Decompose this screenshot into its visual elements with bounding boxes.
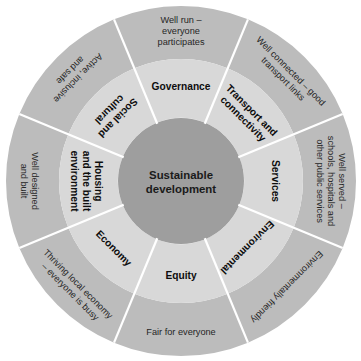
category-label-services: Services <box>270 160 281 202</box>
outer-description-line: Fair for everyone <box>146 327 215 337</box>
outer-description-line: Well designed <box>30 152 40 210</box>
sustainable-development-wheel: Well run –everyoneparticipatesWell conne… <box>0 0 361 361</box>
wheel-svg: Well run –everyoneparticipatesWell conne… <box>0 0 361 361</box>
category-label-governance: Governance <box>152 81 211 92</box>
category-label-line: and the built <box>81 151 92 212</box>
outer-description-line: Well run – <box>160 15 202 25</box>
outer-description-line: schools, hospitals and <box>326 136 336 226</box>
category-label-line: environment <box>69 150 80 212</box>
category-label-line: Services <box>270 160 281 202</box>
outer-segment-equity <box>114 294 248 356</box>
core-disc <box>118 118 244 244</box>
core-circle <box>118 118 244 244</box>
category-label-line: Governance <box>152 81 211 92</box>
outer-description-governance: Well run –everyoneparticipates <box>158 15 205 47</box>
outer-description-equity: Fair for everyone <box>146 327 215 337</box>
outer-description-line: other public services <box>315 139 325 223</box>
outer-description-line: and built <box>19 164 29 199</box>
category-label-line: Equity <box>165 270 196 281</box>
outer-description-line: Well served – <box>337 153 347 209</box>
core-label-line: Sustainable <box>149 169 213 181</box>
core-label-line: development <box>146 183 216 195</box>
outer-description-line: everyone <box>162 26 200 36</box>
category-label-line: Housing <box>93 161 104 202</box>
category-label-equity: Equity <box>165 270 196 281</box>
outer-description-line: participates <box>158 37 205 47</box>
